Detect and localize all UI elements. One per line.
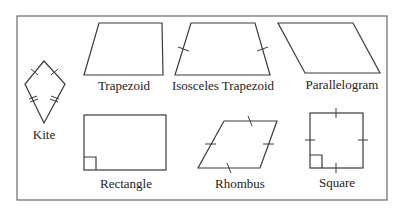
quadrilaterals-diagram: Kite Trapezoid Isosceles Trapezoid Paral… xyxy=(0,0,401,208)
parallelogram-label: Parallelogram xyxy=(306,77,379,92)
rectangle-label: Rectangle xyxy=(100,176,152,191)
kite-label: Kite xyxy=(33,127,56,142)
isosceles-trapezoid-label: Isosceles Trapezoid xyxy=(172,78,275,93)
diagram-frame xyxy=(17,16,387,200)
trapezoid-label: Trapezoid xyxy=(98,78,151,93)
square-label: Square xyxy=(319,175,355,190)
rhombus-label: Rhombus xyxy=(215,176,265,191)
